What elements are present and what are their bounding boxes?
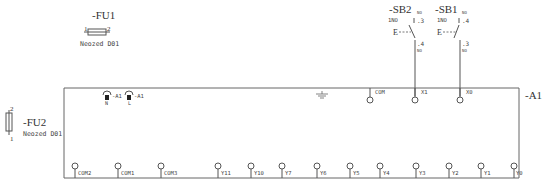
terminal-circle-icon [478,163,484,169]
terminal-label: COM2 [78,170,91,176]
switch-sb2[interactable]: -SB2 NO 1NO .3 E .4 NO [388,3,425,96]
switch-contact-icon [409,25,415,38]
terminal-arc-icon [125,91,133,95]
fu2-label: -FU2 [23,116,46,128]
terminal-x0[interactable]: X0 [457,88,473,103]
terminal-arc-icon [103,91,111,95]
fu1-part: Neozed D01 [80,40,119,48]
sb1-label: -SB1 [435,3,458,15]
sb1-pin-top: .4 [462,17,470,24]
terminal-y10[interactable]: Y10 [248,163,264,178]
terminal-circle-icon [158,163,164,169]
terminal-label: Y6 [320,170,327,176]
terminal-n-label: N [105,100,108,106]
terminal-circle-icon [248,163,254,169]
sb1-type: 1NO [437,17,447,23]
fuse-fu1[interactable]: -FU1 1 2 Neozed D01 [80,9,119,48]
fu2-pin-1: 1 [10,135,14,143]
terminal-circle-icon [413,163,419,169]
terminal-l-ref: -A1 [134,93,144,99]
sb2-no-bottom: NO [417,48,422,53]
terminal-y11[interactable]: Y11 [215,163,231,178]
terminal-y2[interactable]: Y2 [446,163,459,178]
terminal-circle-icon [511,163,517,169]
terminal-com3[interactable]: COM3 [158,163,177,178]
sb2-no-top: NO [417,10,422,15]
sb2-pin-top: .3 [417,17,425,24]
terminal-circle-icon [279,163,285,169]
terminal-com[interactable]: COM [367,88,386,103]
terminal-n-ref: -A1 [112,93,122,99]
terminal-label: Y0 [516,170,523,176]
terminal-com1[interactable]: COM1 [115,163,134,178]
terminal-y4[interactable]: Y4 [377,163,390,178]
terminal-circle-icon [347,163,353,169]
terminal-label: X0 [466,89,473,95]
terminal-l-label: L [128,100,131,106]
terminal-y5[interactable]: Y5 [347,163,360,178]
sb2-type: 1NO [388,17,398,23]
terminal-circle-icon [457,97,463,103]
terminal-label: Y7 [285,170,292,176]
fu2-part: Neozed D01 [23,130,62,138]
switch-sb1[interactable]: -SB1 NO 1NO .4 E .3 NO [435,3,470,96]
terminal-y7[interactable]: Y7 [279,163,292,178]
terminal-com2[interactable]: COM2 [72,163,91,178]
sb2-marker: E [393,28,398,37]
terminal-circle-icon [412,97,418,103]
fu2-pin-2: 2 [10,105,14,113]
power-terminal-l[interactable]: L -A1 [125,91,144,106]
terminal-circle-icon [215,163,221,169]
terminal-label: Y2 [452,170,459,176]
terminal-circle-icon [314,163,320,169]
terminal-circle-icon [72,163,78,169]
terminal-circle-icon [115,163,121,169]
terminal-label: COM [375,89,386,95]
fu1-label: -FU1 [92,9,115,21]
ground-icon [316,91,328,98]
fuse-fu2[interactable]: 2 1 -FU2 Neozed D01 [6,105,62,143]
module-a1[interactable]: -A1 N -A1 L -A1 COM [64,88,542,178]
terminal-label: Y4 [383,170,390,176]
terminal-label: Y5 [353,170,360,176]
terminal-circle-icon [367,97,373,103]
terminal-label: Y1 [484,170,491,176]
sb1-no-bottom: NO [462,48,467,53]
sb1-pin-bottom: .3 [462,40,470,47]
terminal-label: Y3 [419,170,426,176]
power-terminal-n[interactable]: N -A1 [103,91,122,106]
terminal-y1[interactable]: Y1 [478,163,491,178]
terminal-circle-icon [377,163,383,169]
terminal-label: Y11 [221,170,231,176]
terminal-y0[interactable]: Y0 [511,163,523,178]
sb1-marker: E [437,28,442,37]
sb2-label: -SB2 [389,3,412,15]
terminal-label: Y10 [254,170,264,176]
switch-contact-icon [454,25,459,38]
sb1-no-top: NO [462,10,467,15]
terminal-label: X1 [421,89,428,95]
terminal-y6[interactable]: Y6 [314,163,327,178]
schematic-canvas: -FU1 1 2 Neozed D01 2 1 -FU2 Neozed D01 … [0,0,545,187]
terminal-x1[interactable]: X1 [412,88,428,103]
sb2-pin-bottom: .4 [417,40,425,47]
terminal-y3[interactable]: Y3 [413,163,426,178]
module-label: -A1 [525,89,542,101]
terminal-circle-icon [446,163,452,169]
terminal-label: COM1 [121,170,134,176]
terminal-label: COM3 [164,170,177,176]
